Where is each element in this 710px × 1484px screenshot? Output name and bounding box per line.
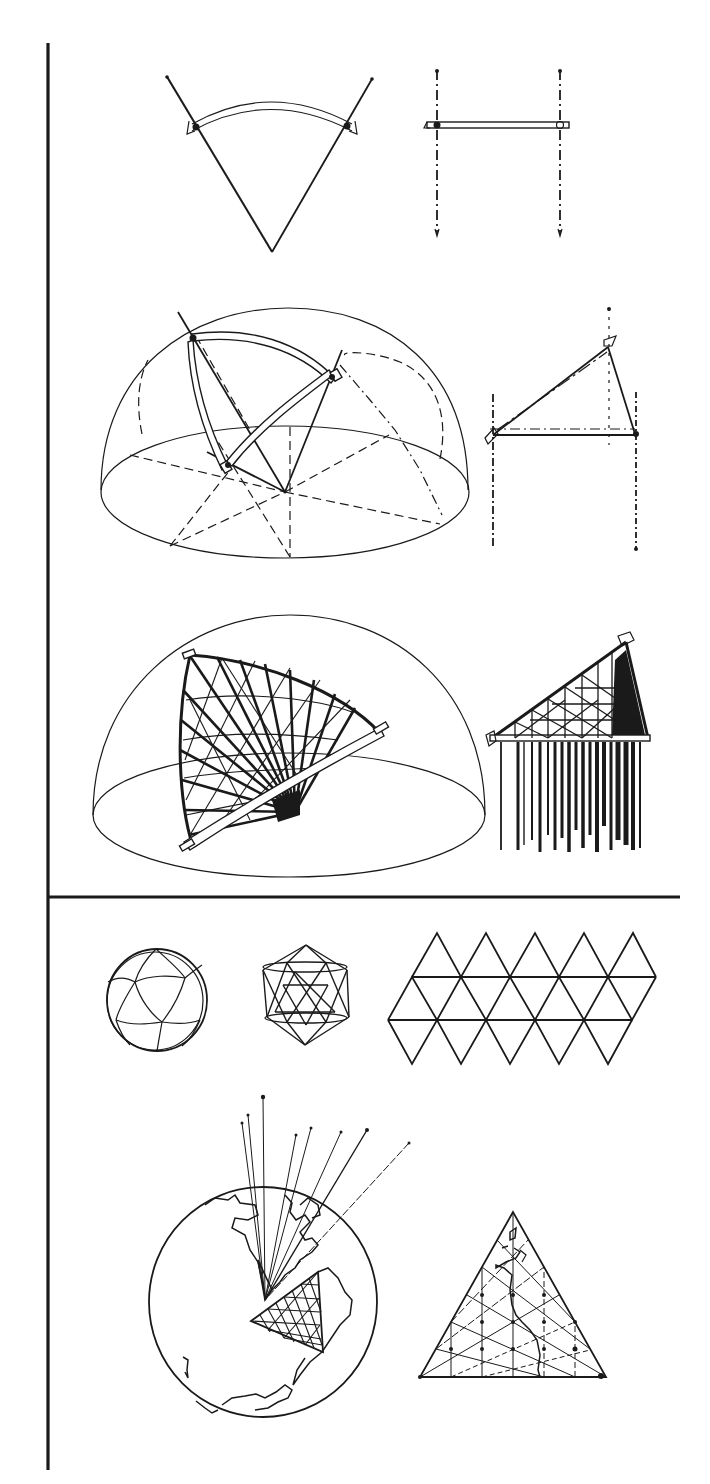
- lower-section: [107, 933, 656, 1417]
- upper-section: [93, 69, 650, 877]
- globe-projection: [149, 1095, 411, 1417]
- hemisphere-single-triangle: [101, 308, 469, 558]
- side-elevation-dense: [486, 632, 650, 852]
- side-elevation-triangle: [485, 307, 639, 551]
- spherical-icosahedron: [107, 949, 207, 1051]
- ray-endpoints: [241, 1095, 411, 1145]
- icosahedron-net: [388, 933, 656, 1064]
- arc-between-radii: [165, 75, 374, 252]
- coastlines: [183, 1195, 352, 1413]
- flat-triangle-map: [418, 1212, 606, 1379]
- frame: [48, 43, 680, 1470]
- diagram-canvas: [0, 0, 710, 1484]
- hemisphere-subdivided-triangle: [93, 615, 485, 877]
- projection-lines: [501, 742, 640, 852]
- side-elevation-h: [424, 69, 569, 236]
- grid-nodes: [418, 1293, 604, 1379]
- wireframe-icosahedron: [263, 945, 349, 1045]
